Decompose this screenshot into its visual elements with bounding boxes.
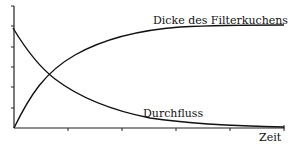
zeit-axis-label: Zeit	[259, 131, 282, 144]
dicke-label: Dicke des Filterkuchens	[153, 14, 288, 27]
durchfluss-label: Durchfluss	[143, 107, 203, 120]
chart: Dicke des Filterkuchens Durchfluss Zeit	[0, 0, 292, 146]
